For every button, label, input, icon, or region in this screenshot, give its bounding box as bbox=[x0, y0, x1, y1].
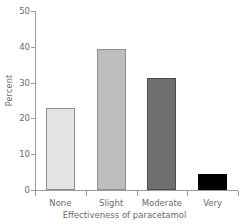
y-tick-mark bbox=[31, 154, 36, 155]
x-tick-label: Very bbox=[173, 198, 249, 208]
y-tick-mark bbox=[31, 118, 36, 119]
x-tick-mark bbox=[35, 191, 36, 196]
x-tick-mark bbox=[238, 191, 239, 196]
x-axis-title: Effectiveness of paracetamol bbox=[0, 210, 249, 220]
x-tick-mark bbox=[137, 191, 138, 196]
y-tick-label: 30 bbox=[8, 78, 30, 88]
x-tick-mark bbox=[187, 191, 188, 196]
y-tick-mark bbox=[31, 83, 36, 84]
x-tick-mark bbox=[86, 191, 87, 196]
y-tick-label: 10 bbox=[8, 149, 30, 159]
y-tick-label: 50 bbox=[8, 6, 30, 16]
bar-moderate bbox=[147, 78, 176, 190]
bar-slight bbox=[97, 49, 126, 190]
y-tick-label: 20 bbox=[8, 113, 30, 123]
y-axis-title: Percent bbox=[5, 61, 14, 121]
y-axis-line bbox=[35, 11, 36, 191]
y-tick-mark bbox=[31, 47, 36, 48]
bar-very bbox=[198, 174, 227, 190]
y-tick-label: 0 bbox=[8, 185, 30, 195]
y-tick-label: 40 bbox=[8, 42, 30, 52]
bar-none bbox=[46, 108, 75, 190]
bar-chart: Percent 01020304050 NoneSlightModerateVe… bbox=[0, 0, 249, 224]
y-tick-mark bbox=[31, 11, 36, 12]
